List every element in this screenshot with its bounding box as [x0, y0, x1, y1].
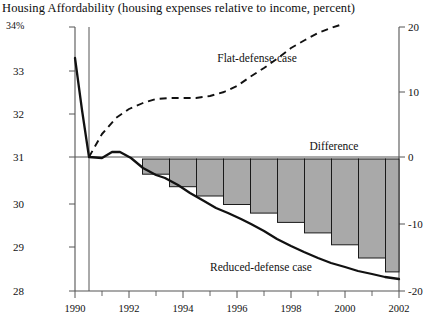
x-axis-tick-1994: 1994 — [173, 303, 195, 314]
bar-2002 — [386, 159, 400, 272]
bar-1993 — [143, 159, 170, 174]
bar-1998 — [278, 159, 305, 222]
chart-canvas: 34% 33 32 31 30 29 28 20 10 0 -10 -20 — [0, 0, 431, 322]
right-axis-tick-m20: -20 — [408, 285, 423, 297]
x-axis-tick-1998: 1998 — [281, 303, 302, 314]
annotation-reduced-defense: Reduced-defense case — [210, 261, 312, 273]
bar-2000 — [332, 159, 359, 245]
bar-1996 — [224, 159, 251, 205]
left-axis-tick-29: 29 — [13, 241, 25, 253]
annotation-difference: Difference — [310, 140, 359, 152]
left-axis-tick-33: 33 — [13, 65, 25, 77]
bar-1995 — [197, 159, 224, 196]
bar-2001 — [359, 159, 386, 258]
right-axis-ticks — [399, 27, 405, 291]
x-axis-major-ticks — [75, 291, 399, 298]
right-axis-tick-m10: -10 — [408, 218, 423, 230]
annotation-flat-defense: Flat-defense case — [217, 52, 297, 64]
x-axis-tick-1990: 1990 — [65, 303, 86, 314]
chart-figure: Housing Affordability (housing expenses … — [0, 0, 431, 322]
left-axis-tick-30: 30 — [13, 198, 25, 210]
x-axis-tick-1996: 1996 — [227, 303, 248, 314]
right-axis-tick-20: 20 — [408, 21, 420, 33]
left-axis-tick-31: 31 — [13, 151, 24, 163]
x-axis-tick-2000: 2000 — [335, 303, 356, 314]
left-axis-tick-34: 34% — [6, 20, 24, 31]
left-axis-tick-28: 28 — [13, 285, 25, 297]
flat-defense-line — [89, 25, 340, 157]
left-axis-ticks — [69, 27, 75, 291]
x-axis-tick-2002: 2002 — [389, 303, 410, 314]
bar-1997 — [251, 159, 278, 213]
x-axis-tick-1992: 1992 — [119, 303, 140, 314]
right-axis-tick-0: 0 — [408, 151, 414, 163]
difference-bars — [143, 159, 400, 272]
left-axis-tick-32: 32 — [13, 108, 24, 120]
bar-1999 — [305, 159, 332, 233]
right-axis-tick-10: 10 — [408, 86, 420, 98]
